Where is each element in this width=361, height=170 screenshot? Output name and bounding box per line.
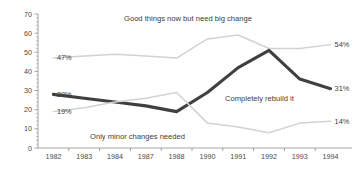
y-tick-label: 70	[24, 10, 32, 19]
x-tick-label: 1994	[323, 152, 339, 161]
x-tick-label: 1992	[261, 152, 277, 161]
y-tick-label: 60	[24, 29, 32, 38]
x-axis-tick-labels: 1982198319841987198819901991199219931994	[45, 152, 338, 161]
y-axis-ticks	[35, 14, 39, 148]
chart-plot-area: 010203040506070 198219831984198719881990…	[0, 0, 361, 170]
series-end-value-2: 14%	[335, 117, 350, 126]
series-annotation-0: Good things now but need big change	[124, 14, 252, 23]
series-annotation-2: Only minor changes needed	[90, 132, 185, 141]
y-tick-label: 30	[24, 86, 32, 95]
x-axis-ticks	[69, 148, 315, 151]
x-tick-label: 1982	[45, 152, 61, 161]
series-start-value-2: 19%	[57, 107, 72, 116]
y-tick-label: 10	[24, 124, 32, 133]
series-value-labels: 47%54%28%31%19%14%	[57, 40, 350, 126]
x-tick-label: 1987	[138, 152, 154, 161]
series-start-value-1: 28%	[57, 90, 72, 99]
y-tick-label: 20	[24, 105, 32, 114]
y-axis-tick-labels: 010203040506070	[24, 10, 32, 153]
series-lines	[53, 35, 330, 133]
y-tick-label: 40	[24, 67, 32, 76]
x-tick-label: 1988	[169, 152, 185, 161]
y-tick-label: 50	[24, 48, 32, 57]
line-chart: 010203040506070 198219831984198719881990…	[0, 0, 361, 170]
x-tick-label: 1991	[230, 152, 246, 161]
x-tick-label: 1990	[199, 152, 215, 161]
x-tick-label: 1984	[107, 152, 123, 161]
x-tick-label: 1983	[76, 152, 92, 161]
series-start-value-0: 47%	[57, 53, 72, 62]
series-annotation-1: Completely rebuild it	[225, 94, 295, 103]
series-line-0	[53, 35, 330, 58]
series-end-value-0: 54%	[335, 40, 350, 49]
series-end-value-1: 31%	[335, 84, 350, 93]
y-tick-label: 0	[28, 144, 32, 153]
x-tick-label: 1993	[292, 152, 308, 161]
series-annotations: Good things now but need big changeCompl…	[90, 14, 295, 141]
